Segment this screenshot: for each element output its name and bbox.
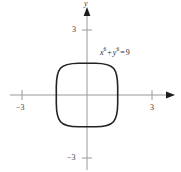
y-tick-label-pos-three: 3: [72, 26, 76, 34]
y-axis-arrowhead-icon: [84, 7, 91, 16]
y-axis-label: y: [84, 0, 88, 8]
y-tick-label-neg-three: −3: [67, 154, 76, 162]
plot-canvas: [0, 0, 181, 172]
x-tick-label-pos-three: 3: [150, 104, 154, 112]
x-tick-label-neg-three: −3: [16, 104, 25, 112]
equation-annotation: x6+y6=9: [100, 49, 130, 57]
x-axis-arrowhead-icon: [166, 92, 175, 99]
equation-right-hand-side: 9: [126, 48, 130, 57]
superellipse-figure: y −3 3 3 −3 x6+y6=9: [0, 0, 181, 172]
